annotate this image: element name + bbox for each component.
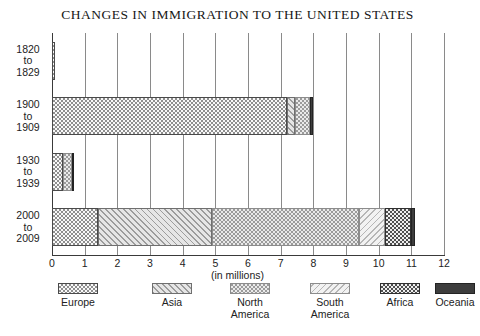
- y-axis-label-1930-to-1939: 1930to1939: [6, 155, 50, 190]
- x-axis-caption: (in millions): [0, 269, 475, 281]
- bar-segment-africa[interactable]: [385, 208, 411, 246]
- legend-label: Asia: [127, 297, 217, 309]
- x-axis-line: [52, 255, 445, 256]
- x-tick-label-0: 0: [49, 257, 55, 269]
- y-axis-label-line: 1829: [6, 67, 50, 79]
- bar-segment-asia[interactable]: [98, 208, 212, 246]
- y-axis-label-line: 1909: [6, 122, 50, 134]
- bar-row[interactable]: [52, 208, 444, 246]
- bar-row[interactable]: [52, 97, 444, 135]
- x-tick-label-10: 10: [373, 257, 385, 269]
- bar-segment-oceania[interactable]: [310, 97, 313, 135]
- chart-title: CHANGES IN IMMIGRATION TO THE UNITED STA…: [0, 7, 475, 23]
- y-axis-label-line: 2009: [6, 233, 50, 245]
- asia-swatch: [152, 283, 192, 294]
- legend-item-asia[interactable]: Asia: [127, 283, 217, 309]
- bar-segment-oceania[interactable]: [72, 153, 74, 191]
- gridline-12: [444, 33, 445, 255]
- bar-segment-europe[interactable]: [52, 42, 55, 80]
- x-tick-label-3: 3: [147, 257, 153, 269]
- legend-item-north[interactable]: NorthAmerica: [205, 283, 295, 320]
- x-tick-label-8: 8: [310, 257, 316, 269]
- bar-segment-europe[interactable]: [52, 208, 98, 246]
- y-axis-label-1900-to-1909: 1900to1909: [6, 99, 50, 134]
- y-axis-label-line: 1939: [6, 178, 50, 190]
- x-tick-label-5: 5: [212, 257, 218, 269]
- bar-segment-south-america[interactable]: [359, 208, 385, 246]
- x-tick-label-12: 12: [438, 257, 450, 269]
- x-tick-label-1: 1: [82, 257, 88, 269]
- bar-segment-oceania[interactable]: [411, 208, 414, 246]
- bar-segment-europe[interactable]: [52, 153, 63, 191]
- bar-row[interactable]: [52, 153, 444, 191]
- europe-swatch: [58, 283, 98, 294]
- legend-item-europe[interactable]: Europe: [33, 283, 123, 309]
- south-america-swatch: [310, 283, 350, 294]
- x-tick-label-2: 2: [114, 257, 120, 269]
- north-america-swatch: [230, 283, 270, 294]
- legend-label: America: [285, 309, 375, 321]
- y-axis-label-1820-to-1829: 1820to1829: [6, 44, 50, 79]
- x-tick-label-9: 9: [343, 257, 349, 269]
- legend-label: Oceania: [410, 297, 480, 309]
- legend-label: North: [205, 297, 295, 309]
- x-tick-label-6: 6: [245, 257, 251, 269]
- legend-label: America: [205, 309, 295, 321]
- oceania-swatch: [435, 283, 475, 294]
- bar-segment-north-america[interactable]: [295, 97, 310, 135]
- y-axis-category-labels: 1820to18291900to19091930to19392000to2009: [2, 33, 50, 255]
- x-tick-label-4: 4: [180, 257, 186, 269]
- bar-row[interactable]: [52, 42, 444, 80]
- legend-item-oceania[interactable]: Oceania: [410, 283, 480, 309]
- legend-label: Europe: [33, 297, 123, 309]
- x-tick-label-11: 11: [406, 257, 417, 269]
- x-tick-label-7: 7: [278, 257, 284, 269]
- plot-area: [52, 33, 444, 255]
- chart-legend: EuropeAsiaNorthAmericaSouthAmericaAfrica…: [0, 283, 475, 329]
- bar-segment-asia[interactable]: [287, 97, 295, 135]
- y-axis-label-2000-to-2009: 2000to2009: [6, 210, 50, 245]
- bar-segment-north-america[interactable]: [63, 153, 71, 191]
- bar-segment-europe[interactable]: [52, 97, 287, 135]
- bar-segment-north-america[interactable]: [212, 208, 359, 246]
